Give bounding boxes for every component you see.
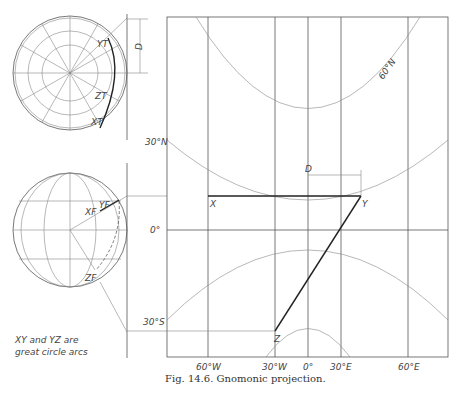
top-globe: D YT ZT XT [13,14,148,140]
lon-30e-label: 30°E [330,362,352,372]
lat-30s-label: 30°S [143,317,165,327]
lon-30w-label: 30°W [262,362,288,372]
lat-60n-label: 60°N [376,57,397,82]
lon-60e-label: 60°E [398,362,420,372]
point-x-label: X [209,199,217,209]
zt-label: ZT [94,91,108,101]
lat-30n-label: 30°N [145,137,168,147]
point-z-label: Z [273,334,281,344]
projection-grid [167,17,448,357]
d-label: D [305,164,312,174]
xf-label: XF [84,207,97,217]
lon-0-label: 0° [303,362,313,372]
note-line-1: XY and YZ are [14,335,79,345]
top-d-label: D [134,43,144,50]
lon-60w-label: 60°W [196,362,222,372]
point-y-label: Y [362,199,369,209]
figure-caption: Fig. 14.6. Gnomonic projection. [165,373,326,384]
bottom-globe: XF YF ZF [13,163,127,358]
zf-label: ZF [84,273,97,283]
yt-label: YT [97,39,109,49]
yf-label: YF [99,200,110,210]
xt-label: XT [90,117,104,127]
lat-0-label: 0° [150,225,160,235]
note-line-2: great circle arcs [15,347,88,357]
gnomonic-projection-figure: D YT ZT XT XF YF ZF [0,0,457,394]
